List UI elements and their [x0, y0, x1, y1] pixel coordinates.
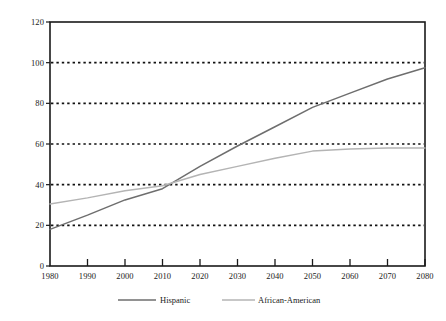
chart-container: 020406080100120 198019902000201020202030…: [0, 0, 446, 321]
legend-item-african-american[interactable]: African-American: [258, 295, 320, 305]
y-tick-label-20: 20: [14, 220, 44, 230]
x-tick-label-2020: 2020: [180, 271, 220, 281]
x-tick-label-2040: 2040: [255, 271, 295, 281]
x-tick-label-2080: 2080: [405, 271, 445, 281]
y-tick-label-60: 60: [14, 139, 44, 149]
x-tick-label-2010: 2010: [143, 271, 183, 281]
x-tick-label-2070: 2070: [368, 271, 408, 281]
y-tick-label-40: 40: [14, 180, 44, 190]
y-tick-label-120: 120: [14, 17, 44, 27]
x-tick-label-2030: 2030: [218, 271, 258, 281]
y-tick-label-0: 0: [14, 261, 44, 271]
x-tick-label-1980: 1980: [30, 271, 70, 281]
x-tick-label-2050: 2050: [293, 271, 333, 281]
x-tick-label-1990: 1990: [68, 271, 108, 281]
legend-item-hispanic[interactable]: Hispanic: [160, 295, 190, 305]
y-tick-label-80: 80: [14, 98, 44, 108]
x-tick-label-2060: 2060: [330, 271, 370, 281]
x-tick-label-2000: 2000: [105, 271, 145, 281]
y-tick-label-100: 100: [14, 58, 44, 68]
